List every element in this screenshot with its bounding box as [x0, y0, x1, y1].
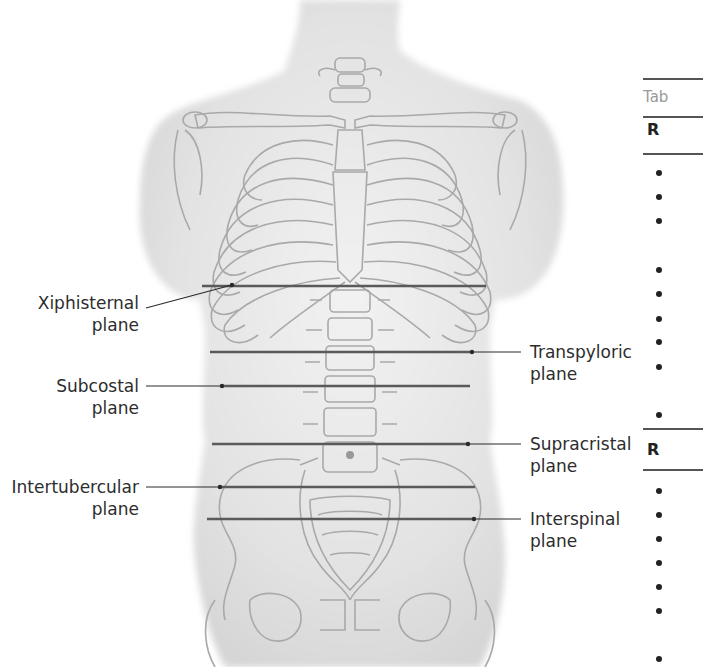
- label-line2: plane: [56, 397, 139, 419]
- body-silhouette: [139, 0, 563, 667]
- bullet: [656, 194, 662, 200]
- label-line1: Interspinal: [530, 508, 620, 530]
- table-caption-rule: [643, 116, 703, 118]
- bullet: [656, 488, 662, 494]
- label-interspinal-plane: Interspinal plane: [530, 508, 620, 552]
- label-line2: plane: [530, 363, 632, 385]
- label-supracristal-plane: Supracristal plane: [530, 433, 632, 477]
- bullet: [656, 512, 662, 518]
- table-header1-rule: [643, 153, 703, 155]
- label-transpyloric-plane: Transpyloric plane: [530, 341, 632, 385]
- bullet: [656, 339, 662, 345]
- label-line1: Xiphisternal: [38, 292, 139, 314]
- label-line1: Intertubercular: [12, 476, 139, 498]
- table-top-rule: [643, 78, 703, 80]
- label-line1: Transpyloric: [530, 341, 632, 363]
- table-section-header-1: R: [647, 120, 659, 139]
- bullet: [656, 536, 662, 542]
- bullet: [656, 218, 662, 224]
- table-header2-rule: [643, 469, 703, 471]
- label-intertubercular-plane: Intertubercular plane: [12, 476, 139, 520]
- bullet: [656, 364, 662, 370]
- bullet: [656, 584, 662, 590]
- label-line1: Supracristal: [530, 433, 632, 455]
- bullet: [656, 291, 662, 297]
- bullet: [656, 560, 662, 566]
- table-caption: Tab: [643, 88, 668, 106]
- label-line2: plane: [530, 455, 632, 477]
- table-panel-clipped: Tab R R: [640, 0, 688, 667]
- bullet: [656, 170, 662, 176]
- label-subcostal-plane: Subcostal plane: [56, 375, 139, 419]
- bullet: [656, 608, 662, 614]
- label-line2: plane: [38, 314, 139, 336]
- label-line1: Subcostal: [56, 375, 139, 397]
- label-line2: plane: [530, 530, 620, 552]
- table-section-rule: [643, 428, 703, 430]
- bullet: [656, 316, 662, 322]
- table-section-header-2: R: [647, 440, 659, 459]
- bullet: [656, 267, 662, 273]
- label-line2: plane: [12, 498, 139, 520]
- label-xiphisternal-plane: Xiphisternal plane: [38, 292, 139, 336]
- bullet: [656, 656, 662, 662]
- bullet: [656, 412, 662, 418]
